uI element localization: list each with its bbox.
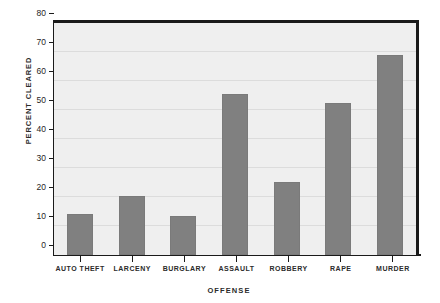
x-axis-tick bbox=[54, 256, 106, 264]
bar-column bbox=[209, 23, 261, 255]
x-axis-title: OFFENSE bbox=[0, 286, 440, 295]
x-axis-tickmark bbox=[340, 256, 341, 262]
x-axis-tick-label: Murder bbox=[367, 265, 419, 272]
y-axis-tick: 20 bbox=[20, 182, 54, 192]
x-axis-tickmarks bbox=[54, 256, 419, 264]
y-axis-tick-label: 40 bbox=[20, 124, 46, 134]
bar-burglary[interactable] bbox=[170, 216, 196, 255]
y-axis-tick: 0 bbox=[20, 240, 54, 250]
y-axis-tick: 50 bbox=[20, 95, 54, 105]
x-axis-tick bbox=[106, 256, 158, 264]
plot-inner: 01020304050607080 bbox=[54, 23, 416, 255]
y-axis-tick-label: 20 bbox=[20, 182, 46, 192]
x-axis-tick bbox=[315, 256, 367, 264]
y-axis-tick: 40 bbox=[20, 124, 54, 134]
y-axis-tick-label: 70 bbox=[20, 37, 46, 47]
bar-series bbox=[54, 23, 416, 255]
x-axis-tickmark bbox=[288, 256, 289, 262]
bar-column bbox=[364, 23, 416, 255]
y-axis-tick-label: 60 bbox=[20, 66, 46, 76]
plot-area: 01020304050607080 bbox=[54, 20, 419, 255]
y-axis-tick-label: 0 bbox=[20, 240, 46, 250]
y-axis-tick: 60 bbox=[20, 66, 54, 76]
x-axis-tick-labels: Auto TheftLarcenyBurglaryAssaultRobberyR… bbox=[54, 265, 419, 272]
x-axis-tick-label: Robbery bbox=[263, 265, 315, 272]
y-axis-tick: 10 bbox=[20, 211, 54, 221]
x-axis-tickmark bbox=[392, 256, 393, 262]
bar-murder[interactable] bbox=[377, 55, 403, 255]
bar-column bbox=[157, 23, 209, 255]
x-axis-tick-label: Larceny bbox=[106, 265, 158, 272]
y-axis-tick-label: 10 bbox=[20, 211, 46, 221]
bar-chart: PERCENT CLEARED 01020304050607080 Auto T… bbox=[0, 0, 440, 303]
bar-rape[interactable] bbox=[325, 103, 351, 255]
y-axis-tick-label: 50 bbox=[20, 95, 46, 105]
x-axis-tick-label: Burglary bbox=[158, 265, 210, 272]
y-axis-tickmark bbox=[49, 13, 54, 14]
x-axis-tick bbox=[210, 256, 262, 264]
y-axis-tick-label: 30 bbox=[20, 153, 46, 163]
bar-column bbox=[106, 23, 158, 255]
bar-larceny[interactable] bbox=[119, 196, 145, 255]
y-axis-tick: 30 bbox=[20, 153, 54, 163]
x-axis-tick-label: Auto Theft bbox=[54, 265, 106, 272]
y-axis-tick-label: 80 bbox=[20, 8, 46, 18]
bar-column bbox=[313, 23, 365, 255]
x-axis-tickmark bbox=[236, 256, 237, 262]
y-axis-tick: 70 bbox=[20, 37, 54, 47]
x-axis-tick-label: Assault bbox=[210, 265, 262, 272]
x-axis-tick bbox=[263, 256, 315, 264]
x-axis-tick bbox=[158, 256, 210, 264]
x-axis-tickmark bbox=[80, 256, 81, 262]
x-axis-tick bbox=[367, 256, 419, 264]
bar-auto-theft[interactable] bbox=[67, 214, 93, 255]
x-axis-tickmark bbox=[184, 256, 185, 262]
bar-column bbox=[261, 23, 313, 255]
x-axis-tick-label: Rape bbox=[315, 265, 367, 272]
y-axis-tick: 80 bbox=[20, 8, 54, 18]
bar-robbery[interactable] bbox=[274, 182, 300, 255]
bar-column bbox=[54, 23, 106, 255]
x-axis-tickmark bbox=[132, 256, 133, 262]
bar-assault[interactable] bbox=[222, 94, 248, 255]
